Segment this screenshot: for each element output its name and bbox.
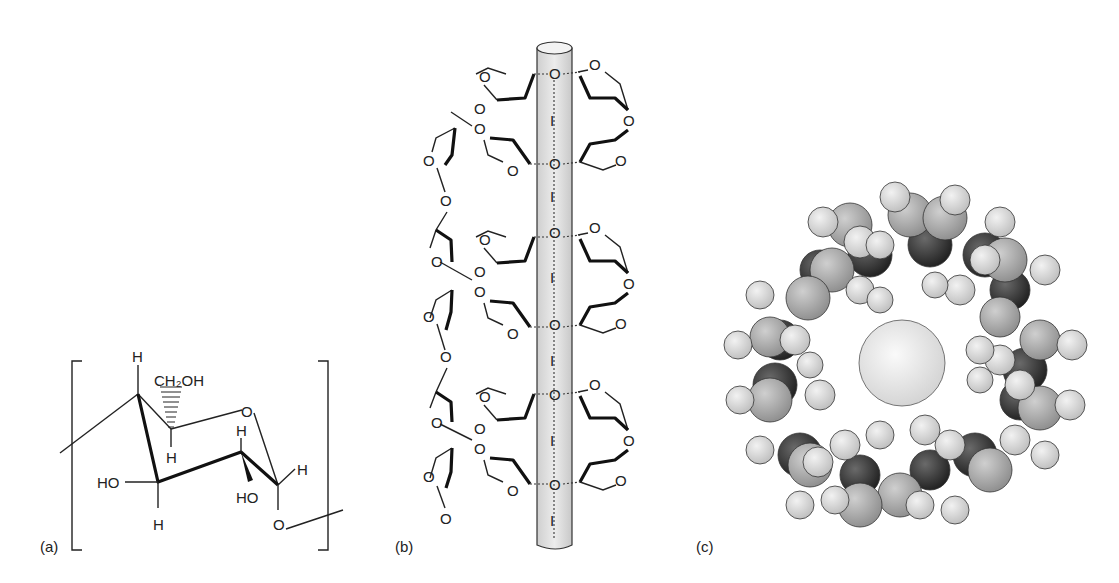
iodine-sphere (859, 320, 945, 406)
svg-text:O: O (615, 315, 627, 332)
svg-text:O: O (423, 468, 435, 485)
atom-ring-o: O (241, 403, 253, 420)
svg-text:O: O (623, 275, 635, 292)
atom-ho-right: HO (236, 489, 259, 506)
svg-text:O: O (479, 388, 491, 405)
iodine: I (550, 112, 554, 129)
svg-text:O: O (479, 68, 491, 85)
atom-h-bottom: H (153, 516, 164, 533)
svg-text:O: O (431, 253, 443, 270)
svg-text:O: O (474, 100, 486, 117)
svg-text:O: O (474, 440, 486, 457)
panel-a-glucose-unit: H CH₂OH O H H H HO HO H O (a) (40, 348, 343, 555)
svg-text:O: O (474, 420, 486, 437)
left-bracket (72, 361, 82, 550)
center-o: O (549, 155, 561, 172)
svg-text:O: O (615, 472, 627, 489)
atom-h-right: H (297, 461, 308, 478)
iodine: I (550, 432, 554, 449)
center-o: O (549, 316, 561, 333)
atom-h-top: H (132, 348, 143, 365)
center-o: O (549, 476, 561, 493)
center-o: O (549, 386, 561, 403)
svg-text:O: O (440, 348, 452, 365)
svg-text:O: O (615, 152, 627, 169)
right-bracket (318, 361, 328, 550)
figure-canvas: H CH₂OH O H H H HO HO H O (a) O I O I O … (0, 0, 1119, 583)
helix-back-chain: O O O O O O O O (423, 112, 472, 527)
center-o: O (549, 224, 561, 241)
svg-text:O: O (423, 152, 435, 169)
svg-text:O: O (431, 414, 443, 431)
svg-text:O: O (507, 482, 519, 499)
bond (278, 469, 295, 485)
svg-text:O: O (440, 510, 452, 527)
svg-text:O: O (474, 263, 486, 280)
panel-c-space-filling-model: (c) (696, 182, 1087, 555)
panel-label-c: (c) (696, 538, 714, 555)
svg-text:O: O (507, 325, 519, 342)
svg-text:O: O (507, 162, 519, 179)
svg-text:O: O (623, 432, 635, 449)
svg-text:O: O (474, 120, 486, 137)
iodine: I (550, 352, 554, 369)
panel-label-a: (a) (40, 538, 58, 555)
panel-b-amylose-helix: O I O I O I O I O I O I O O O O (395, 42, 635, 555)
svg-text:O: O (589, 56, 601, 73)
svg-text:O: O (474, 283, 486, 300)
iodine: I (550, 269, 554, 286)
svg-text:O: O (479, 231, 491, 248)
atom-o-link: O (273, 516, 285, 533)
atom-h-mid: H (166, 449, 177, 466)
bond (171, 410, 242, 429)
panel-label-b: (b) (395, 538, 413, 555)
ring-front-bonds (138, 394, 278, 485)
glycosidic-bond-right (286, 510, 343, 529)
atom-ho-left: HO (97, 474, 120, 491)
iodine: I (550, 188, 554, 205)
atom-h-c1: H (236, 422, 247, 439)
svg-text:O: O (623, 112, 635, 129)
atom-ch2oh: CH₂OH (154, 372, 204, 389)
iodine: I (550, 512, 554, 529)
center-o: O (549, 65, 561, 82)
svg-text:O: O (589, 376, 601, 393)
svg-text:O: O (423, 308, 435, 325)
svg-text:O: O (440, 192, 452, 209)
svg-text:O: O (589, 219, 601, 236)
